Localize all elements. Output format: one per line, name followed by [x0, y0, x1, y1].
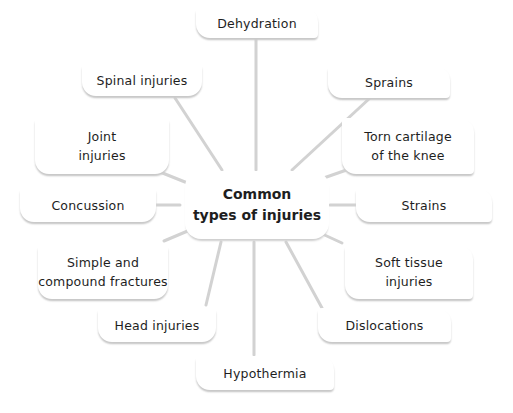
node-label: Sprains	[365, 73, 413, 92]
node-dislocations: Dislocations	[318, 308, 451, 342]
node-label: Joint injuries	[78, 127, 125, 165]
node-label: Concussion	[51, 196, 124, 215]
node-label: Hypothermia	[223, 364, 306, 383]
node-label: Dislocations	[345, 316, 423, 335]
node-spinal: Spinal injuries	[82, 64, 202, 96]
node-label: Head injuries	[115, 316, 200, 335]
node-hypothermia: Hypothermia	[196, 356, 334, 390]
node-label: Torn cartilage of the knee	[364, 127, 452, 165]
node-label: Strains	[402, 196, 447, 215]
node-joint: Joint injuries	[35, 118, 169, 174]
center-node: Common types of injuries	[185, 171, 329, 239]
node-torn-cartilage: Torn cartilage of the knee	[342, 118, 474, 174]
center-label: Common types of injuries	[193, 184, 321, 226]
connector-dislocations	[286, 242, 322, 308]
node-label: Spinal injuries	[97, 71, 188, 90]
node-sprains: Sprains	[328, 66, 450, 98]
node-fractures: Simple and compound fractures	[38, 245, 168, 299]
connector-spinal	[175, 98, 222, 170]
node-concussion: Concussion	[20, 188, 156, 222]
connector-head	[206, 242, 221, 305]
node-label: Simple and compound fractures	[38, 253, 168, 291]
node-label: Dehydration	[217, 14, 297, 33]
node-label: Soft tissue injuries	[375, 253, 443, 291]
connector-fractures	[164, 230, 190, 241]
node-soft-tissue: Soft tissue injuries	[345, 245, 473, 299]
node-dehydration: Dehydration	[196, 8, 318, 38]
node-strains: Strains	[356, 188, 492, 222]
node-head: Head injuries	[98, 308, 216, 342]
